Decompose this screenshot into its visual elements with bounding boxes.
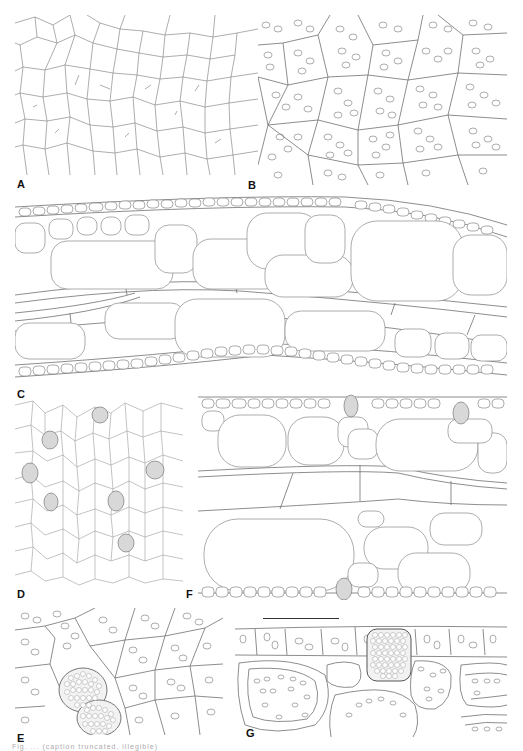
panel-e-drawing: [15, 608, 223, 735]
raphide-idioblast: [367, 629, 411, 681]
panel-a-drawing: [15, 15, 258, 175]
panel-b-drawing: [258, 15, 507, 185]
chloroplast-cells-drawing: [258, 15, 507, 185]
transverse-section-idioblast-drawing: [198, 393, 507, 600]
figure-caption: Fig. ... (caption truncated, illegible): [12, 743, 158, 750]
transverse-section-drawing: [15, 195, 507, 385]
panel-d-drawing: [15, 395, 183, 588]
raphide-surface-drawing: [15, 608, 223, 735]
raphide-idioblasts: [59, 668, 121, 735]
panel-label-g: G: [246, 728, 255, 739]
panel-label-f: F: [186, 589, 193, 600]
panel-label-a: A: [17, 179, 25, 190]
idioblast-surface-drawing: [15, 395, 183, 588]
panel-f-drawing: [198, 393, 507, 600]
panel-label-b: B: [248, 180, 256, 191]
parenchyma-cells: [15, 213, 507, 361]
transverse-raphide-drawing: [235, 625, 507, 737]
scale-bar: [263, 618, 339, 619]
panel-g-drawing: [235, 625, 507, 737]
epidermis-cells-drawing: [15, 15, 258, 175]
panel-label-d: D: [17, 589, 25, 600]
panel-c-drawing: [15, 195, 507, 385]
